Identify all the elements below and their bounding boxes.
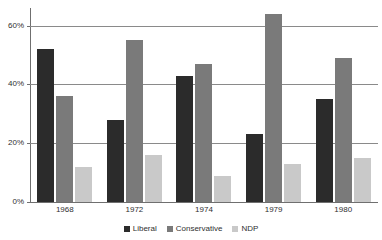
y-axis-labels: 0%20%40%60% xyxy=(0,8,27,202)
legend-item-ndp[interactable]: NDP xyxy=(232,224,258,233)
bar-conservative-1974[interactable] xyxy=(195,64,212,202)
bar-chart: 0%20%40%60% 19681972197419791980 Liberal… xyxy=(0,0,382,240)
bar-liberal-1979[interactable] xyxy=(246,134,263,202)
x-axis-label-1972: 1972 xyxy=(100,205,170,214)
bar-ndp-1972[interactable] xyxy=(145,155,162,202)
bar-group xyxy=(308,8,378,202)
bar-ndp-1974[interactable] xyxy=(214,176,231,202)
legend-item-liberal[interactable]: Liberal xyxy=(124,224,157,233)
chart-legend: LiberalConservativeNDP xyxy=(0,224,382,233)
x-axis-label-1974: 1974 xyxy=(169,205,239,214)
plot-area xyxy=(30,8,378,202)
bar-ndp-1980[interactable] xyxy=(354,158,371,202)
x-axis-label-1968: 1968 xyxy=(30,205,100,214)
x-axis-labels: 19681972197419791980 xyxy=(30,205,378,219)
bar-ndp-1979[interactable] xyxy=(284,164,301,202)
bar-group xyxy=(30,8,100,202)
y-axis-tick-label: 40% xyxy=(0,79,24,88)
legend-label: Conservative xyxy=(176,224,223,233)
bar-group xyxy=(239,8,309,202)
bar-conservative-1968[interactable] xyxy=(56,96,73,202)
bar-liberal-1980[interactable] xyxy=(316,99,333,202)
bar-liberal-1974[interactable] xyxy=(176,76,193,202)
legend-item-conservative[interactable]: Conservative xyxy=(167,224,223,233)
bar-groups xyxy=(30,8,378,202)
y-axis-tick-label: 0% xyxy=(0,197,24,206)
legend-swatch-icon xyxy=(167,226,173,232)
bar-liberal-1968[interactable] xyxy=(37,49,54,202)
y-axis-tick-label: 60% xyxy=(0,21,24,30)
bar-conservative-1972[interactable] xyxy=(126,40,143,202)
legend-swatch-icon xyxy=(232,226,238,232)
x-axis-line xyxy=(30,202,378,203)
legend-label: NDP xyxy=(241,224,258,233)
bar-group xyxy=(100,8,170,202)
legend-swatch-icon xyxy=(124,226,130,232)
legend-label: Liberal xyxy=(133,224,157,233)
bar-ndp-1968[interactable] xyxy=(75,167,92,202)
y-axis-tick-label: 20% xyxy=(0,138,24,147)
bar-conservative-1980[interactable] xyxy=(335,58,352,202)
bar-conservative-1979[interactable] xyxy=(265,14,282,202)
bar-group xyxy=(169,8,239,202)
x-axis-label-1980: 1980 xyxy=(308,205,378,214)
x-axis-label-1979: 1979 xyxy=(239,205,309,214)
bar-liberal-1972[interactable] xyxy=(107,120,124,202)
